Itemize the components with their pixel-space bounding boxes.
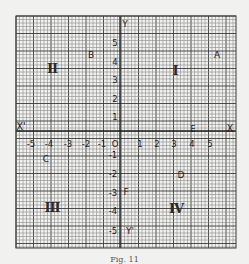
- x-tick: 2: [154, 140, 159, 149]
- origin-label: O: [112, 140, 119, 149]
- x-tick: -1: [98, 140, 106, 149]
- y-tick: -5: [109, 227, 117, 236]
- point-b: B: [88, 51, 94, 60]
- x-tick: 3: [171, 140, 176, 149]
- y-tick: 1: [112, 113, 117, 122]
- x-tick: 1: [137, 140, 142, 149]
- x-tick: -2: [82, 140, 90, 149]
- y-axis-label-positive: Y: [122, 20, 128, 29]
- point-e: E: [190, 126, 195, 134]
- x-axis-label-negative: X': [16, 122, 26, 132]
- point-a: A: [214, 51, 220, 60]
- figure-caption: Fig. 11: [0, 255, 249, 264]
- y-tick: 4: [112, 58, 117, 67]
- quadrant-label-ii: II: [47, 61, 57, 76]
- x-tick: 5: [207, 140, 212, 149]
- y-tick: -4: [109, 207, 117, 216]
- point-f: F: [123, 188, 128, 197]
- y-tick: -2: [109, 170, 117, 179]
- quadrant-label-i: I: [172, 63, 177, 78]
- x-tick: -3: [64, 140, 72, 149]
- x-tick: 4: [189, 140, 194, 149]
- coordinate-grid-figure: [0, 0, 249, 264]
- quadrant-label-iv: IV: [169, 201, 183, 216]
- x-tick: -4: [45, 140, 53, 149]
- x-tick: -5: [27, 140, 35, 149]
- y-tick: 3: [112, 76, 117, 85]
- y-tick: 5: [112, 39, 117, 48]
- point-d: D: [178, 171, 185, 180]
- y-tick: -1: [109, 151, 117, 160]
- y-tick: 2: [112, 95, 117, 104]
- quadrant-label-iii: III: [44, 200, 59, 215]
- x-axis-label-positive: X: [227, 124, 234, 134]
- point-c: C: [43, 155, 49, 164]
- y-tick: -3: [109, 189, 117, 198]
- y-axis-label-negative: Y': [126, 227, 134, 236]
